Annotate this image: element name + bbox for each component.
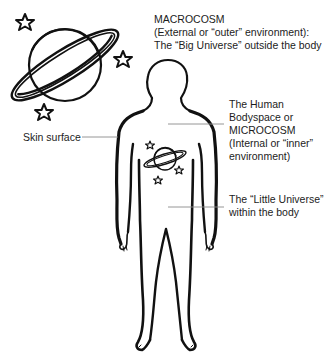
diagram-artwork [0, 0, 336, 363]
little-universe-label: The “Little Universe” within the body [229, 193, 324, 219]
macrocosm-label: MACROCOSM (External or “outer” environme… [154, 13, 322, 52]
big-planet-icon [4, 19, 125, 110]
small-planet-icon [143, 147, 188, 170]
macrocosm-subtitle: (External or “outer” environment): [154, 26, 322, 39]
macrocosm-description: The “Big Universe” outside the body [154, 39, 322, 52]
skin-surface-label: Skin surface [23, 131, 81, 144]
microcosm-label: The Human Bodyspace or MICROCOSM (Intern… [229, 98, 313, 163]
human-body-outline [117, 60, 217, 350]
macrocosm-title: MACROCOSM [154, 13, 322, 26]
